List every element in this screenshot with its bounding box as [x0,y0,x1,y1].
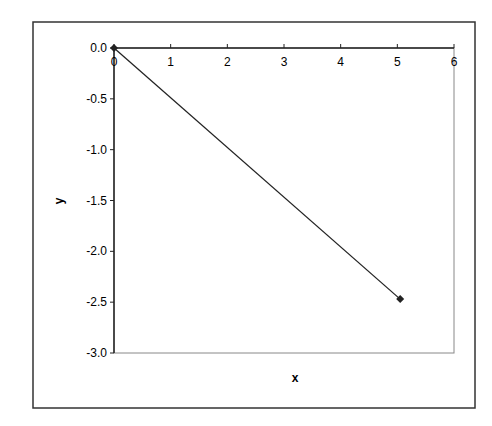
y-tick-label: -1.0 [86,143,107,157]
x-tick-label: 1 [167,55,174,69]
y-tick-label: -1.5 [86,194,107,208]
y-axis-label: y [52,197,66,204]
y-tick-label: -0.5 [86,92,107,106]
x-tick-label: 6 [451,55,458,69]
y-tick-label: -3.0 [86,346,107,360]
y-tick-label: -2.0 [86,244,107,258]
y-tick-label: 0.0 [90,41,107,55]
x-tick-label: 4 [337,55,344,69]
plot-area [114,48,454,353]
x-axis-label: x [292,371,299,385]
y-tick-label: -2.5 [86,295,107,309]
x-tick-label: 0 [111,55,118,69]
x-tick-label: 2 [224,55,231,69]
chart: 0.0-0.5-1.0-1.5-2.0-2.5-3.0 0123456 x y [0,0,492,426]
x-tick-label: 3 [281,55,288,69]
x-tick-label: 5 [394,55,401,69]
